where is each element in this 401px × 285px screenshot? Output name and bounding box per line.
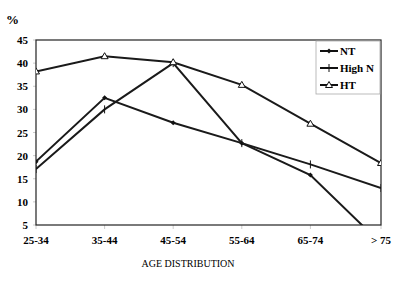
legend-label: High N xyxy=(340,62,374,74)
y-axis-unit: % xyxy=(6,12,19,27)
y-tick-label: 20 xyxy=(17,150,29,162)
y-tick-label: 45 xyxy=(17,34,29,46)
y-axis-ticks: 51015202530354045 xyxy=(17,34,36,231)
y-tick-label: 10 xyxy=(17,196,29,208)
legend-label: HT xyxy=(340,79,357,91)
x-axis-ticks: 25-3435-4445-5455-6465-74> 75 xyxy=(23,225,391,246)
y-tick-label: 40 xyxy=(17,57,29,69)
y-tick-label: 35 xyxy=(17,80,29,92)
x-axis-title: AGE DISTRIBUTION xyxy=(141,258,234,269)
x-tick-label: 45-54 xyxy=(160,234,186,246)
x-tick-label: 55-64 xyxy=(229,234,255,246)
x-tick-label: 65-74 xyxy=(298,234,324,246)
x-tick-label: 35-44 xyxy=(92,234,118,246)
line-chart: % 51015202530354045 25-3435-4445-5455-64… xyxy=(0,0,401,285)
x-tick-label: > 75 xyxy=(371,234,392,246)
y-tick-label: 30 xyxy=(17,103,29,115)
y-tick-label: 5 xyxy=(23,219,29,231)
legend-label: NT xyxy=(340,45,356,57)
y-tick-label: 25 xyxy=(17,127,29,139)
y-tick-label: 15 xyxy=(17,173,29,185)
legend: NTHigh NHT xyxy=(316,41,380,94)
x-tick-label: 25-34 xyxy=(23,234,49,246)
